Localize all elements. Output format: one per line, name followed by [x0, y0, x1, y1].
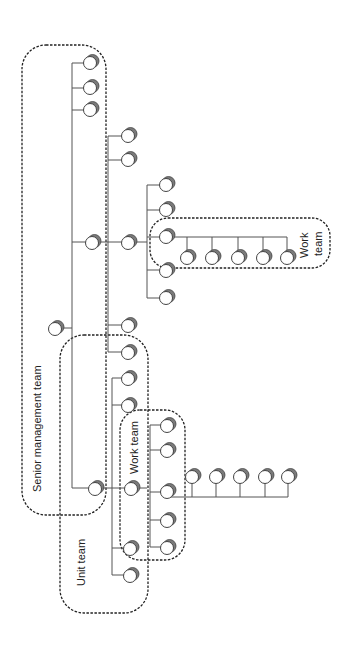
- person-node: [160, 177, 176, 192]
- person-node: [122, 318, 138, 333]
- person-node: [84, 55, 100, 70]
- person-node: [124, 541, 140, 556]
- person-node: [160, 290, 176, 305]
- person-node: [161, 443, 177, 458]
- person-node: [86, 235, 102, 250]
- person-node: [161, 484, 177, 499]
- person-node: [122, 128, 138, 143]
- work-team-lower-label: Work team: [128, 421, 140, 474]
- person-node: [125, 481, 141, 496]
- nodes: [49, 55, 298, 583]
- person-node: [257, 250, 273, 265]
- unit-team-label: Unit team: [75, 539, 87, 586]
- person-node: [259, 469, 275, 484]
- person-node: [210, 469, 226, 484]
- org-diagram: Senior management team Unit team Work te…: [0, 0, 342, 648]
- person-node: [282, 469, 298, 484]
- person-node: [84, 80, 100, 95]
- person-node: [181, 250, 197, 265]
- person-node: [122, 235, 138, 250]
- person-node: [160, 263, 176, 278]
- work-team-right-label-line1: Work: [298, 232, 310, 258]
- person-node: [160, 229, 176, 244]
- person-node: [124, 568, 140, 583]
- person-node: [161, 540, 177, 555]
- person-node: [122, 345, 138, 360]
- person-node: [122, 152, 138, 167]
- person-node: [161, 418, 177, 433]
- senior-management-team-label: Senior management team: [31, 365, 43, 492]
- person-node: [206, 250, 222, 265]
- work-team-right-label-line2: team: [312, 232, 324, 256]
- person-node: [234, 469, 250, 484]
- person-node: [160, 202, 176, 217]
- person-node: [161, 513, 177, 528]
- person-node: [122, 371, 138, 386]
- person-node: [281, 250, 297, 265]
- person-node: [84, 102, 100, 117]
- person-node: [89, 481, 105, 496]
- person-node: [49, 321, 65, 336]
- connector-lines: [55, 63, 288, 575]
- person-node: [186, 469, 202, 484]
- person-node: [232, 250, 248, 265]
